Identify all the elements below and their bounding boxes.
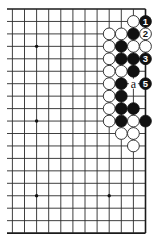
white-stone xyxy=(103,40,115,52)
white-stone xyxy=(127,128,139,140)
white-stone xyxy=(103,28,115,40)
white-stone xyxy=(127,140,139,152)
white-stone xyxy=(115,28,127,40)
white-stone xyxy=(103,78,115,90)
black-stone: 5 xyxy=(140,78,152,90)
star-point xyxy=(108,194,111,197)
white-stone xyxy=(140,40,152,52)
black-stone xyxy=(140,115,152,127)
white-stone xyxy=(127,115,139,127)
black-stone xyxy=(127,65,139,77)
black-stone: 3 xyxy=(140,53,152,65)
black-stone xyxy=(127,103,139,115)
svg-text:a: a xyxy=(131,77,137,91)
black-stone xyxy=(115,78,127,90)
black-stone xyxy=(115,103,127,115)
white-stone: 2 xyxy=(140,28,152,40)
white-stone xyxy=(103,53,115,65)
point-label-a: a xyxy=(129,77,138,91)
black-stone xyxy=(115,40,127,52)
white-stone xyxy=(115,128,127,140)
point-labels: a xyxy=(129,77,138,91)
black-stone xyxy=(127,28,139,40)
move-number: 2 xyxy=(143,28,148,39)
white-stone xyxy=(115,65,127,77)
black-stone xyxy=(127,53,139,65)
move-number: 5 xyxy=(143,78,149,89)
move-number: 3 xyxy=(143,53,148,64)
go-board: 1235 a xyxy=(0,0,154,241)
stones: 1235 xyxy=(103,16,151,152)
black-stone xyxy=(115,90,127,102)
star-point xyxy=(35,45,38,48)
white-stone xyxy=(103,103,115,115)
white-stone xyxy=(127,40,139,52)
move-number: 1 xyxy=(143,16,149,27)
black-stone xyxy=(115,115,127,127)
white-stone xyxy=(103,65,115,77)
white-stone xyxy=(103,115,115,127)
black-stone: 1 xyxy=(140,16,152,28)
star-point xyxy=(35,194,38,197)
star-point xyxy=(35,119,38,122)
white-stone xyxy=(103,90,115,102)
black-stone xyxy=(115,53,127,65)
white-stone xyxy=(127,16,139,28)
